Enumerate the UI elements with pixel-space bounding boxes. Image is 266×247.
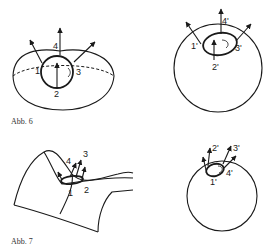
saddle-label-4: 4 [66,156,71,166]
saddle-label-3: 3 [83,149,88,159]
saddle-front-edge [14,205,98,232]
saddle-label-1: 1 [68,188,73,198]
sphere7-label-3p: 3' [233,143,240,153]
caption-abb-6: Abb. 6 [11,117,33,126]
point-label-3p: 3' [235,43,242,53]
normal-arrow-3p [236,24,251,41]
sphere7-label-4p: 4' [226,168,233,178]
sphere-image-diagram-6: 1' 2' 3' 4' [174,9,262,112]
saddle-ridge-line [44,152,133,184]
hemisphere-diagram: 1 2 3 4 [13,28,114,110]
saddle-right-edge [98,190,133,232]
image-loop [201,30,238,58]
point-label-4p: 4' [222,16,229,26]
saddle-label-2: 2 [84,185,89,195]
equator-dashed [13,66,114,77]
normal-arrow-3 [74,42,95,62]
saddle-arrow-2 [82,167,85,179]
point-label-2: 2 [54,89,59,99]
point-label-4: 4 [53,41,58,51]
sphere7-label-1p: 1' [210,177,217,187]
point-label-1: 1 [35,66,40,76]
caption-abb-7: Abb. 7 [11,237,33,246]
point-label-3: 3 [76,67,81,77]
sphere7-label-2p: 2' [212,143,219,153]
rotation-arc [68,68,70,77]
rotation-arc-p [222,40,228,48]
figure-canvas: 1 2 3 4 1' 2' 3' 4' Abb. 6 1 2 3 4 [0,0,266,247]
point-label-1p: 1' [191,41,198,51]
saddle-arrow-3 [76,160,81,177]
hemisphere-outline [13,50,114,110]
saddle-diagram: 1 2 3 4 [14,149,133,232]
sphere7-arrow-1p [203,157,206,170]
sphere-image-diagram-7: 1' 2' 3' 4' [187,143,257,231]
point-label-2p: 2' [212,62,219,72]
